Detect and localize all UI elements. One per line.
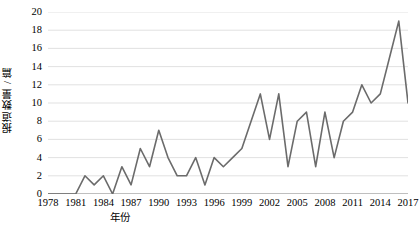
y-tick-label: 14 [32, 61, 43, 72]
x-axis-tick-labels: 1978198119841987199019931996199920022005… [0, 198, 419, 214]
gridlines [48, 12, 408, 194]
x-tick-label: 2017 [398, 198, 419, 209]
plot-area [48, 12, 408, 194]
series-polyline [48, 21, 408, 194]
x-tick-label: 1999 [231, 198, 252, 209]
y-tick-label: 8 [37, 116, 42, 127]
x-tick-label: 1990 [148, 198, 169, 209]
data-series-line [48, 21, 408, 194]
x-axis-title: 年份 [0, 213, 240, 224]
x-tick-label: 2014 [370, 198, 391, 209]
y-axis-tick-labels: 02468101214161820 [16, 0, 46, 205]
y-tick-label: 2 [37, 171, 42, 182]
y-tick-label: 16 [32, 43, 43, 54]
line-chart-figure: 报道数量 / 篇 02468101214161820 1978198119841… [0, 0, 419, 236]
y-tick-label: 12 [32, 80, 43, 91]
x-tick-label: 2011 [342, 198, 363, 209]
x-tick-label: 1984 [93, 198, 114, 209]
y-tick-label: 20 [32, 7, 43, 18]
x-tick-label: 2005 [287, 198, 308, 209]
y-tick-label: 10 [32, 98, 43, 109]
y-tick-label: 4 [37, 152, 42, 163]
y-axis-title-label: 报道数量 / 篇 [3, 66, 14, 133]
x-tick-label: 1981 [65, 198, 86, 209]
plot-svg [48, 12, 408, 194]
y-tick-label: 6 [37, 134, 42, 145]
x-tick-label: 1996 [204, 198, 225, 209]
y-tick-label: 18 [32, 25, 43, 36]
x-tick-label: 1978 [38, 198, 59, 209]
y-axis-title: 报道数量 / 篇 [0, 0, 16, 200]
x-tick-label: 2002 [259, 198, 280, 209]
x-tick-label: 2008 [314, 198, 335, 209]
x-tick-label: 1987 [121, 198, 142, 209]
x-tick-label: 1993 [176, 198, 197, 209]
